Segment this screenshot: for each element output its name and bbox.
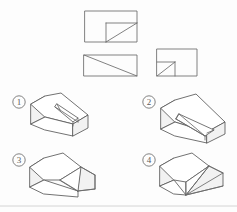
footer-rule-layer [0,0,237,212]
projection-question-page: 1 [0,0,237,212]
footer-canvas [0,0,237,212]
